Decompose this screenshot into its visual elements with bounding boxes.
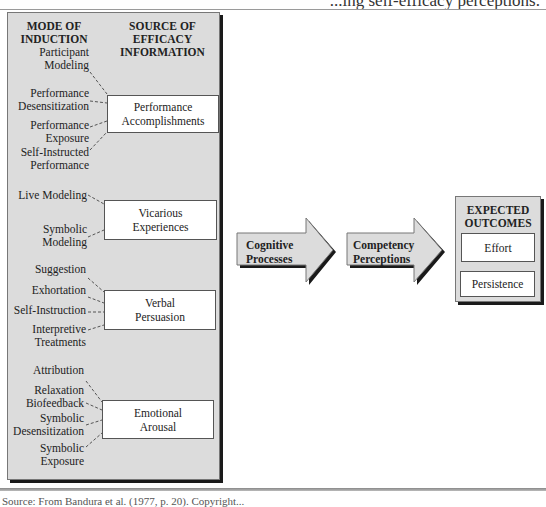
- arrow-label-line: Perceptions: [353, 252, 414, 266]
- arrow-label-competency-perceptions: Competency Perceptions: [353, 238, 414, 266]
- outcome-persistence: Persistence: [460, 271, 535, 297]
- outcomes-title-line: OUTCOMES: [455, 217, 541, 230]
- arrow-label-line: Cognitive: [246, 238, 293, 252]
- source-note: Source: From Bandura et al. (1977, p. 20…: [2, 495, 244, 507]
- bottom-rule: [0, 488, 546, 491]
- outcomes-title-line: EXPECTED: [455, 204, 541, 217]
- arrow-label-line: Processes: [246, 252, 293, 266]
- outcomes-title: EXPECTED OUTCOMES: [455, 204, 541, 230]
- arrow-label-line: Competency: [353, 238, 414, 252]
- outcome-effort: Effort: [461, 233, 535, 262]
- arrow-label-cognitive-processes: Cognitive Processes: [246, 238, 293, 266]
